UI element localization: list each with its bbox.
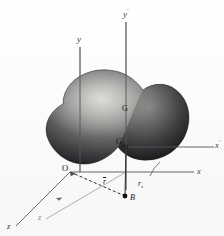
- vector-label-r-bar: r: [103, 177, 106, 186]
- axis-label-x: x: [197, 167, 201, 176]
- axis-label-z-prime: z′: [38, 214, 42, 222]
- point-label-G-centre: G0: [116, 137, 125, 146]
- vector-label-r-c: rc: [138, 180, 143, 188]
- figure-container: Fig. 1 Rigid body with body axes and spa…: [0, 0, 224, 236]
- axis-label-y-prime: y′: [123, 10, 128, 19]
- mass-point-B-marker: [123, 194, 128, 199]
- point-label-O: O: [62, 164, 68, 173]
- axis-label-x-prime: x′: [215, 141, 220, 150]
- axis-label-y: y: [77, 35, 81, 44]
- point-label-B: B: [130, 194, 135, 202]
- point-label-G-body: G: [122, 105, 128, 113]
- axis-label-z: z: [7, 222, 10, 231]
- rigid-body-diagram: [0, 0, 224, 236]
